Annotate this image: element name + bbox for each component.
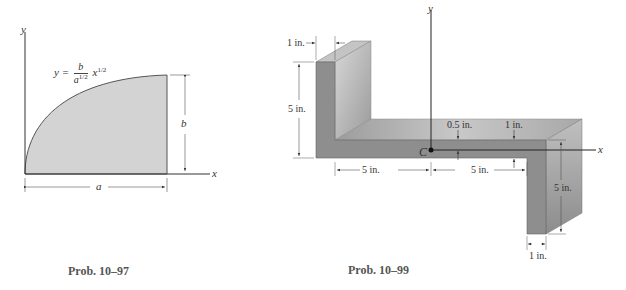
x-axis-label-right: x — [598, 144, 603, 155]
caption-prob-10-99: Prob. 10–99 — [348, 263, 409, 278]
diagrams-canvas — [0, 0, 626, 290]
y-axis-label-right: y — [428, 3, 433, 14]
dim-offset-above-axis: 0.5 in. — [447, 120, 472, 130]
x-axis-label-left: x — [212, 168, 217, 179]
dim-left-web-length: 5 in. — [362, 165, 380, 175]
dim-right-web-length: 5 in. — [471, 165, 489, 175]
caption-prob-10-97: Prob. 10–97 — [68, 264, 129, 279]
dimension-a-label: a — [96, 181, 102, 192]
dim-top-flange-thickness: 1 in. — [287, 38, 305, 48]
centroid-label: C — [419, 146, 427, 158]
z-section-figure — [293, 10, 596, 250]
curve-equation: y = b a1/2 x1/2 — [54, 62, 106, 85]
dim-web-thickness: 1 in. — [505, 120, 523, 130]
y-axis-label-left: y — [21, 24, 26, 35]
parabolic-area-figure — [25, 32, 210, 192]
dim-right-flange-height: 5 in. — [554, 183, 572, 193]
dim-left-flange-height: 5 in. — [288, 104, 306, 114]
dim-bottom-flange-thickness: 1 in. — [529, 251, 547, 261]
dimension-b-label: b — [181, 118, 187, 129]
